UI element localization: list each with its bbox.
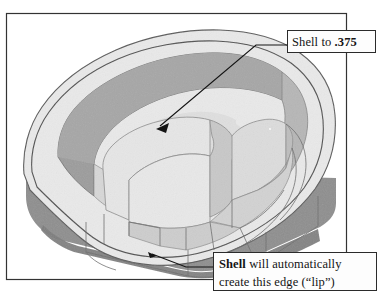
callout-text-bold: Shell [219,257,246,271]
callout-text-plain: Shell to [292,35,335,49]
callout-shell-thickness-line-1: Shell to .375 [292,33,375,52]
callout-lip-edge-line-1: Shell will automatically [219,256,376,274]
callout-lip-edge: Shell will automatically create this edg… [213,252,377,291]
highlight-speck [269,128,271,130]
callout-text-bold: .375 [335,35,357,49]
callout-shell-thickness: Shell to .375 [287,30,376,53]
callout-lip-edge-line-2: create this edge (“lip”) [219,274,376,292]
callout-text-plain: will automatically [246,257,342,271]
callout-text-plain: create this edge (“lip”) [219,275,335,289]
figure-container: Shell to .375 Shell will automatically c… [0,0,386,294]
